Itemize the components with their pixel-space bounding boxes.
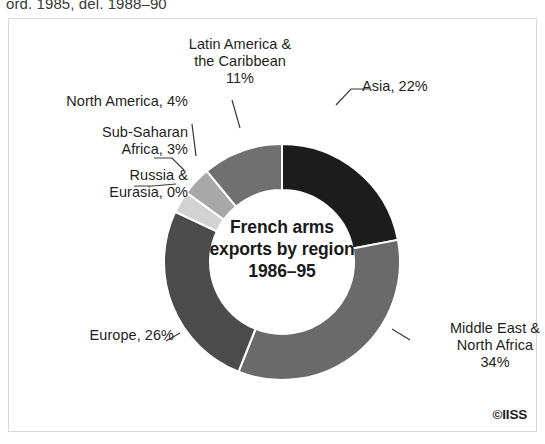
slice-label-russia-eurasia: Russia & Eurasia, 0% <box>18 167 188 201</box>
iiss-credit: ©IISS <box>493 407 527 422</box>
slice-label-middle-east-north-africa: Middle East & North Africa 34% <box>420 320 545 371</box>
slice-label-asia: Asia, 22% <box>362 78 522 95</box>
slice-label-north-america: North America, 4% <box>28 93 188 110</box>
slice-label-sub-saharan-africa: Sub-Saharan Africa, 3% <box>18 124 188 158</box>
slice-label-europe: Europe, 26% <box>14 327 174 344</box>
slice-label-latin-america: Latin America & the Caribbean 11% <box>150 36 330 87</box>
top-caption: ord. 1985, del. 1988–90 <box>6 0 167 13</box>
chart-center-title: French arms exports by region 1986–95 <box>182 216 382 282</box>
